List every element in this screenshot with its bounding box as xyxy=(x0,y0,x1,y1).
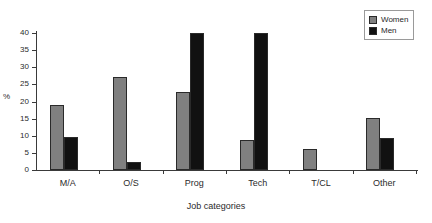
y-axis-tick-label: 20 xyxy=(20,97,29,107)
bar-women-tcl xyxy=(303,149,317,170)
legend-item-men[interactable]: Men xyxy=(369,25,408,36)
bar-group-bars xyxy=(176,28,204,170)
x-axis-tick xyxy=(353,170,354,174)
legend-item-women[interactable]: Women xyxy=(369,14,408,25)
x-axis-label-other: Other xyxy=(349,177,419,189)
y-axis-tick-label: 30 xyxy=(20,62,29,72)
x-axis-label-tech: Tech xyxy=(223,177,293,189)
x-axis-tick xyxy=(99,170,100,174)
bar-group-bars xyxy=(303,28,331,170)
y-axis-tick: 40 xyxy=(0,28,36,38)
x-axis-tick xyxy=(226,170,227,174)
x-axis-tick xyxy=(289,170,290,174)
y-axis-tick-label: 10 xyxy=(20,131,29,141)
x-axis-label-ma: M/A xyxy=(33,177,103,189)
x-axis-label-prog: Prog xyxy=(159,177,229,189)
x-axis-tick xyxy=(416,170,417,174)
legend-label-men: Men xyxy=(381,25,397,36)
y-axis-tick-mark xyxy=(32,170,36,171)
y-axis-tick-label: 40 xyxy=(20,28,29,38)
bar-women-prog xyxy=(176,92,190,170)
bar-women-other xyxy=(366,118,380,170)
legend-swatch-men-icon xyxy=(369,27,377,35)
legend-label-women: Women xyxy=(381,14,408,25)
chart-legend: Women Men xyxy=(364,10,414,40)
x-axis-line xyxy=(36,170,418,171)
y-axis-tick-label: 35 xyxy=(20,45,29,55)
x-axis-label-tcl: T/CL xyxy=(286,177,356,189)
plot-area xyxy=(36,28,416,170)
y-axis-tick: 35 xyxy=(0,45,36,55)
bar-men-os xyxy=(127,162,141,170)
bar-men-ma xyxy=(64,137,78,170)
y-axis-tick: 5 xyxy=(0,148,36,158)
y-axis-tick: 25 xyxy=(0,79,36,89)
y-axis-tick-label: 0 xyxy=(25,165,29,175)
bar-men-prog xyxy=(190,33,204,170)
bar-group-bars xyxy=(50,28,78,170)
bar-group-bars xyxy=(113,28,141,170)
y-axis-tick: 20 xyxy=(0,97,36,107)
y-axis-tick-label: 15 xyxy=(20,114,29,124)
y-axis-tick: 0 xyxy=(0,165,36,175)
bar-women-ma xyxy=(50,105,64,170)
bar-women-os xyxy=(113,77,127,171)
y-axis-tick: 30 xyxy=(0,62,36,72)
x-axis-label-os: O/S xyxy=(96,177,166,189)
bar-men-tech xyxy=(254,33,268,170)
bar-men-other xyxy=(380,138,394,170)
bar-group-bars xyxy=(240,28,268,170)
x-axis-title: Job categories xyxy=(0,200,432,212)
y-axis-tick: 15 xyxy=(0,114,36,124)
x-axis-tick xyxy=(163,170,164,174)
y-axis-tick-label: 25 xyxy=(20,79,29,89)
bar-women-tech xyxy=(240,140,254,170)
y-axis-tick-label: 5 xyxy=(25,148,29,158)
legend-swatch-women-icon xyxy=(369,16,377,24)
bar-chart: % 0510152025303540 M/AO/SProgTechT/CLOth… xyxy=(0,0,432,223)
y-axis-tick: 10 xyxy=(0,131,36,141)
bar-group-bars xyxy=(366,28,394,170)
